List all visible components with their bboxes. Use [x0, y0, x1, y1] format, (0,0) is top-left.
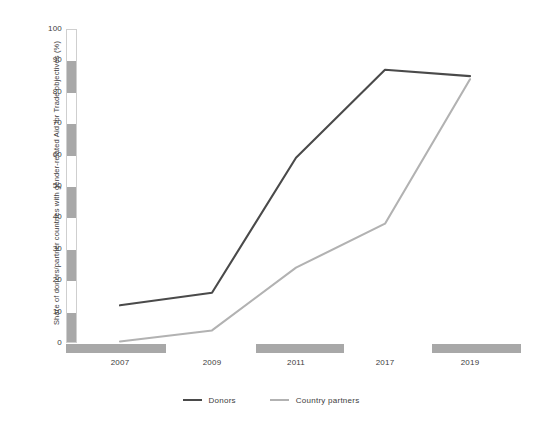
line-chart: Share of donors/partner countries with g…: [0, 0, 542, 432]
legend-label: Donors: [209, 396, 236, 405]
legend-line-swatch-icon: [183, 399, 202, 402]
y-axis-band-segment: [67, 313, 76, 343]
y-axis-band[interactable]: [66, 29, 77, 343]
legend-label: Country partners: [296, 396, 360, 405]
y-tick-label: 60: [36, 150, 62, 159]
y-tick-label: 0: [36, 338, 62, 347]
legend-entry[interactable]: Country partners: [270, 396, 360, 405]
x-tick-label: 2011: [287, 358, 305, 367]
x-tick-label: 2017: [376, 358, 395, 367]
x-tick-label: 2009: [203, 358, 222, 367]
x-tick-label: 2019: [461, 358, 480, 367]
y-tick-label: 10: [36, 307, 62, 316]
x-axis-band[interactable]: [66, 344, 521, 353]
x-tick-label: 2007: [111, 358, 130, 367]
y-axis-band-segment: [67, 250, 76, 281]
x-axis-band-segment: [344, 344, 432, 353]
x-axis-band-segment: [166, 344, 256, 353]
y-axis-band-segment: [67, 124, 76, 155]
legend-line-swatch-icon: [270, 399, 289, 402]
chart-legend: DonorsCountry partners: [0, 392, 542, 408]
y-axis-band-segment: [67, 187, 76, 218]
series-line-country-partners: [120, 79, 470, 341]
y-tick-label: 70: [36, 118, 62, 127]
y-tick-label: 50: [36, 181, 62, 190]
y-axis-band-segment: [67, 61, 76, 92]
y-tick-label: 30: [36, 244, 62, 253]
y-tick-label: 80: [36, 87, 62, 96]
x-axis-tick-labels: 20072009201120172019: [0, 358, 542, 372]
y-tick-label: 100: [36, 24, 62, 33]
y-tick-label: 90: [36, 55, 62, 64]
y-tick-label: 40: [36, 212, 62, 221]
series-line-donors: [120, 70, 470, 306]
legend-entry[interactable]: Donors: [183, 396, 236, 405]
y-tick-label: 20: [36, 275, 62, 284]
